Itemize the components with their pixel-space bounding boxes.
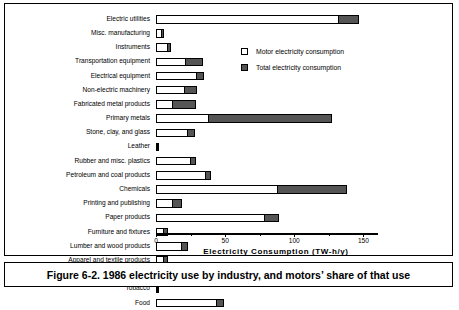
- bar-row: [156, 154, 454, 168]
- bar-row: [156, 296, 454, 310]
- category-label: Printing and publishing: [83, 200, 150, 207]
- category-label: Petroleum and coal products: [66, 172, 150, 179]
- x-tick-minor: [329, 233, 330, 236]
- bar-segment-motor: [156, 157, 191, 166]
- category-label-row: Instruments: [5, 40, 153, 54]
- bar-segment-motor: [156, 29, 162, 38]
- bar-row: [156, 83, 454, 97]
- category-label-row: Electric utilities: [5, 12, 153, 26]
- bar-segment-motor: [156, 72, 197, 81]
- bar-row: [156, 97, 454, 111]
- category-label: Primary metals: [106, 115, 150, 122]
- legend-swatch-motor-icon: [241, 48, 248, 55]
- bar-row: [156, 26, 454, 40]
- bar-segment-motor: [156, 143, 158, 152]
- bar-segment-motor: [156, 171, 206, 180]
- figure-caption-box: Figure 6-2. 1986 electricity use by indu…: [4, 262, 453, 287]
- bar-segment-motor: [156, 129, 188, 138]
- bar-segment-motor: [156, 15, 339, 24]
- category-label-row: Stone, clay, and glass: [5, 126, 153, 140]
- category-label: Electric utilities: [106, 16, 150, 23]
- x-axis-title: Electricity Consumption (TW-h/y): [156, 247, 396, 256]
- category-label: Furniture and fixtures: [88, 229, 150, 236]
- legend-item-motor: Motor electricity consumption: [241, 45, 344, 57]
- legend-label-motor: Motor electricity consumption: [256, 48, 344, 55]
- category-label-row: Chemicals: [5, 182, 153, 196]
- category-label-row: Rubber and misc. plastics: [5, 154, 153, 168]
- category-label-row: Electrical equipment: [5, 69, 153, 83]
- category-label: Fabricated metal products: [74, 101, 150, 108]
- category-label: Chemicals: [119, 186, 150, 193]
- category-label-row: Non-electric machinery: [5, 83, 153, 97]
- x-tick-minor: [260, 233, 261, 236]
- category-label-row: Food: [5, 296, 153, 310]
- bar-segment-motor: [156, 86, 185, 95]
- bar-row: [156, 140, 454, 154]
- x-tick-minor: [191, 233, 192, 236]
- category-label-row: Primary metals: [5, 111, 153, 125]
- bar-segment-motor: [156, 214, 265, 223]
- bar-segment-motor: [156, 299, 217, 308]
- category-label: Rubber and misc. plastics: [75, 158, 151, 165]
- x-axis-tick-labels: 050100150: [5, 237, 459, 247]
- category-label-row: Misc. manufacturing: [5, 26, 153, 40]
- bar-row: [156, 211, 454, 225]
- category-label-row: Petroleum and coal products: [5, 168, 153, 182]
- chart-frame: Electric utilitiesMisc. manufacturingIns…: [4, 3, 453, 256]
- category-label: Food: [135, 300, 150, 307]
- category-label: Stone, clay, and glass: [86, 129, 150, 136]
- bar-segment-motor: [156, 100, 173, 109]
- chart-legend: Motor electricity consumption Total elec…: [241, 45, 344, 77]
- category-label: Misc. manufacturing: [91, 30, 150, 37]
- category-label-row: Fabricated metal products: [5, 97, 153, 111]
- bar-row: [156, 12, 454, 26]
- bar-segment-motor: [156, 43, 168, 52]
- category-label-row: Transportation equipment: [5, 55, 153, 69]
- figure-caption: Figure 6-2. 1986 electricity use by indu…: [47, 269, 410, 281]
- bar-segment-motor: [156, 185, 278, 194]
- bar-segment-motor: [156, 114, 209, 123]
- bar-row: [156, 168, 454, 182]
- category-label-row: Printing and publishing: [5, 196, 153, 210]
- bar-row: [156, 126, 454, 140]
- bar-segment-motor: [156, 199, 173, 208]
- category-label: Paper products: [105, 214, 150, 221]
- legend-swatch-total-icon: [241, 64, 248, 71]
- x-tick-label: 150: [358, 237, 369, 244]
- x-tick-label: 0: [154, 237, 158, 244]
- x-tick-label: 100: [289, 237, 300, 244]
- category-label-row: Paper products: [5, 211, 153, 225]
- category-label: Leather: [128, 143, 150, 150]
- category-label: Non-electric machinery: [83, 87, 150, 94]
- legend-label-total: Total electricity consumption: [256, 64, 341, 71]
- bar-row: [156, 182, 454, 196]
- bar-row: [156, 196, 454, 210]
- category-label: Transportation equipment: [75, 58, 150, 65]
- category-label: Instruments: [116, 44, 150, 51]
- category-label-row: Leather: [5, 140, 153, 154]
- bar-row: [156, 111, 454, 125]
- legend-item-total: Total electricity consumption: [241, 61, 344, 73]
- x-tick-label: 50: [221, 237, 228, 244]
- bar-segment-motor: [156, 58, 186, 67]
- category-label: Electrical equipment: [91, 73, 150, 80]
